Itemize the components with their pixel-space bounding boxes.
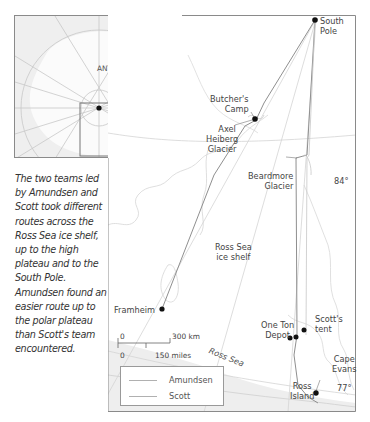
label-lat-84: 84° [334, 176, 349, 186]
scale-mi-label: 150 miles [155, 351, 191, 361]
map-legend: Amundsen Scott [120, 366, 224, 406]
map-caption: The two teams led by Amundsen and Scott … [15, 172, 107, 357]
label-axel-heiberg-glacier: Axel Heiberg Glacier [206, 124, 238, 154]
main-route-map [108, 15, 356, 412]
label-south-pole: South Pole [320, 16, 344, 36]
label-scotts-tent: Scott's tent [315, 314, 343, 334]
scale-km-label: 300 km [172, 332, 200, 342]
amundsen-line-swatch [129, 380, 157, 381]
label-cape-evans: Cape Evans [332, 354, 357, 374]
scale-mi-zero: 0 [120, 351, 125, 361]
scale-km-zero: 0 [120, 332, 125, 342]
label-one-ton-depot: One Ton Depot [261, 320, 294, 340]
label-ross-ice-shelf: Ross Sea ice shelf [215, 242, 252, 262]
legend-item-amundsen: Amundsen [129, 375, 213, 385]
scott-line-swatch [129, 396, 157, 397]
map-lines [108, 15, 356, 412]
label-beardmore-glacier: Beardmore Glacier [248, 171, 293, 191]
label-butchers-camp: Butcher's Camp [210, 94, 249, 114]
legend-item-scott: Scott [129, 391, 190, 401]
label-lat-77: 77° [337, 383, 352, 393]
label-framheim: Framheim [114, 305, 155, 315]
label-ross-island: Ross Island [290, 381, 314, 401]
